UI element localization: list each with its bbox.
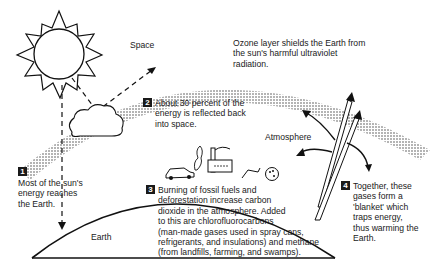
ozone-line: radiation. [233, 59, 365, 69]
step-badge: 3 [146, 185, 155, 194]
step-badge: 4 [341, 181, 350, 190]
step-line: Together, these [353, 181, 412, 191]
step-line: About 30 percent of the [155, 98, 244, 108]
ozone-line: Ozone layer shields the Earth from [233, 38, 365, 48]
step-line: the Earth. [18, 199, 83, 209]
tree-icon [242, 168, 279, 181]
arrow-down-icon [58, 222, 66, 230]
step-line: Earth. [341, 233, 418, 243]
step-1: 1 Most of the sun's energy reaches the E… [18, 167, 83, 209]
step-line: gases form a [341, 191, 418, 201]
ozone-line: the sun's harmful ultraviolet [233, 48, 365, 58]
step-line: deforestation increase carbon [146, 195, 319, 205]
ozone-caption: Ozone layer shields the Earth from the s… [233, 38, 365, 69]
atmosphere-label: Atmosphere [265, 132, 311, 142]
step-badge: 2 [143, 98, 152, 107]
step-line: (man-made gases used in spray cans, [146, 227, 319, 237]
step-line: energy reaches [18, 188, 83, 198]
cloud-icon [69, 105, 123, 137]
earth-label: Earth [91, 232, 112, 242]
step-4: 4Together, these gases form a 'blanket' … [341, 181, 418, 243]
space-label: Space [130, 40, 154, 50]
step-2: 2About 30 percent of the energy is refle… [143, 98, 246, 129]
step-line: traps energy, [341, 212, 418, 222]
step-line: (from landfills, farming, and swamps). [146, 247, 319, 257]
step-line: 'blanket' which [341, 202, 418, 212]
step-line: Burning of fossil fuels and [158, 185, 256, 195]
step-line: energy is reflected back [143, 108, 246, 118]
step-line: dioxide in the atmosphere. Added [146, 206, 319, 216]
step-line: thus warming the [341, 223, 418, 233]
step-line: refrigerants, and insulations) and metha… [146, 237, 319, 247]
step-line: to this are chlorofluorocarbons [146, 216, 319, 226]
step-line: Most of the sun's [18, 178, 83, 188]
sun-icon [17, 11, 102, 98]
step-3: 3Burning of fossil fuels and deforestati… [146, 185, 319, 258]
factory-icon [208, 147, 232, 172]
step-line: into space. [143, 119, 246, 129]
car-icon [166, 146, 202, 180]
step-badge: 1 [18, 167, 27, 176]
